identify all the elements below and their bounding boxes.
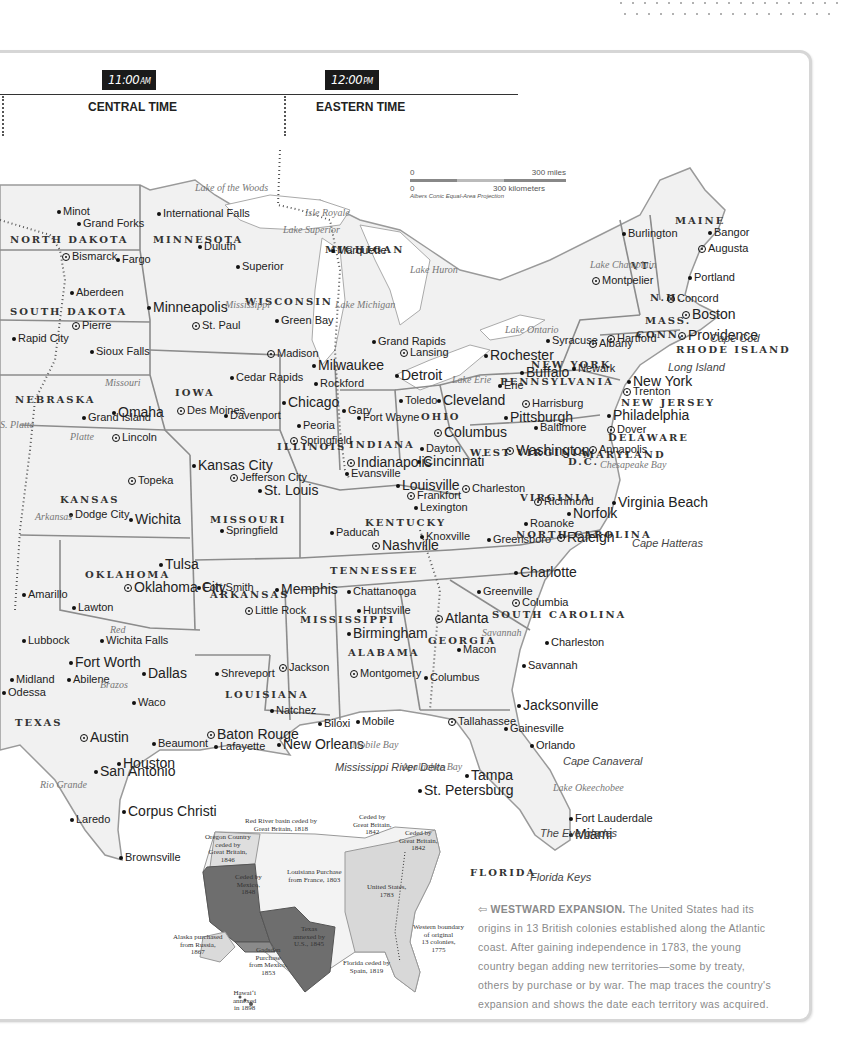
city-label: International Falls: [155, 208, 250, 219]
city-name: Midland: [16, 673, 55, 685]
city-name: Virginia Beach: [618, 494, 708, 510]
state-label: MISSISSIPPI: [300, 615, 395, 625]
city-dot-icon: [77, 222, 81, 226]
city-label: Odessa: [0, 687, 46, 698]
capital-star-icon: [230, 474, 238, 482]
city-label: Annapolis: [587, 444, 647, 455]
city-name: Dodge City: [75, 508, 129, 520]
city-name: Odessa: [8, 686, 46, 698]
city-name: Topeka: [138, 474, 173, 486]
city-dot-icon: [372, 340, 376, 344]
city-dot-icon: [534, 426, 538, 430]
central-time-clock: 11:00AM: [102, 70, 156, 90]
city-dot-icon: [520, 371, 524, 375]
city-name: Tampa: [471, 767, 513, 783]
city-name: Chattanooga: [353, 585, 416, 597]
city-dot-icon: [275, 319, 279, 323]
city-name: Rockford: [320, 377, 364, 389]
city-dot-icon: [517, 704, 521, 708]
city-dot-icon: [147, 306, 151, 310]
city-name: Detroit: [401, 367, 442, 383]
city-name: Cincinnati: [423, 453, 484, 469]
city-name: Burlington: [628, 227, 678, 239]
city-dot-icon: [10, 678, 14, 682]
city-dot-icon: [72, 606, 76, 610]
city-label: Savannah: [520, 660, 578, 671]
city-name: Lansing: [410, 346, 449, 358]
capital-star-icon: [290, 437, 298, 445]
city-dot-icon: [357, 416, 361, 420]
inset-note: United States, 1783: [367, 884, 406, 899]
city-name: Austin: [90, 729, 129, 745]
inset-note: Alaska purchased from Russia, 1867: [173, 934, 223, 957]
city-label: Midland: [8, 674, 55, 685]
city-label: Minneapolis: [145, 300, 228, 314]
city-dot-icon: [215, 672, 219, 676]
city-dot-icon: [100, 639, 104, 643]
capital-star-icon: [522, 400, 530, 408]
eastern-clock-time: 12:00: [331, 72, 362, 87]
city-label: Topeka: [126, 475, 173, 486]
eastern-clock-ampm: PM: [363, 77, 373, 86]
capital-star-icon: [667, 295, 675, 303]
city-name: Fargo: [122, 253, 151, 265]
city-name: Charlotte: [520, 564, 577, 580]
city-dot-icon: [198, 245, 202, 249]
city-name: Duluth: [204, 240, 236, 252]
capital-star-icon: [698, 245, 706, 253]
city-label: Bismarck: [60, 251, 117, 262]
city-dot-icon: [282, 401, 286, 405]
city-name: Hartford: [617, 332, 657, 344]
city-label: Baltimore: [532, 422, 586, 433]
capital-star-icon: [435, 615, 443, 623]
city-dot-icon: [314, 382, 318, 386]
city-label: Burlington: [620, 228, 678, 239]
city-dot-icon: [119, 856, 123, 860]
city-name: Trenton: [633, 385, 671, 397]
capital-star-icon: [267, 350, 275, 358]
city-name: Portland: [694, 271, 735, 283]
city-label: Mobile: [354, 716, 394, 727]
city-label: Lansing: [398, 347, 449, 358]
city-dot-icon: [708, 231, 712, 235]
city-dot-icon: [220, 529, 224, 533]
city-dot-icon: [484, 354, 488, 358]
city-dot-icon: [399, 399, 403, 403]
city-dot-icon: [347, 590, 351, 594]
city-dot-icon: [12, 337, 16, 341]
state-label: IOWA: [175, 388, 215, 398]
city-dot-icon: [330, 531, 334, 535]
city-name: Shreveport: [221, 667, 275, 679]
city-name: Grand Forks: [83, 217, 144, 229]
city-label: Wichita: [127, 512, 181, 526]
city-label: Fort Smith: [195, 582, 254, 593]
city-dot-icon: [270, 709, 274, 713]
city-dot-icon: [465, 774, 469, 778]
city-dot-icon: [116, 258, 120, 262]
city-dot-icon: [90, 350, 94, 354]
city-dot-icon: [437, 399, 441, 403]
city-name: Charleston: [551, 636, 604, 648]
water-label: Rio Grande: [40, 780, 87, 790]
city-label: Pierre: [70, 320, 111, 331]
capital-star-icon: [372, 542, 380, 550]
scale-bar-graphic: [410, 179, 566, 182]
water-label: Lake Michigan: [335, 300, 395, 310]
state-label: LOUISIANA: [225, 690, 309, 700]
city-name: Biloxi: [324, 717, 350, 729]
state-label: SOUTH CAROLINA: [492, 610, 626, 620]
city-name: Lexington: [420, 501, 468, 513]
water-label: Lake Huron: [410, 265, 458, 275]
city-name: Memphis: [281, 581, 338, 597]
city-label: Fort Worth: [67, 655, 141, 669]
city-name: Dover: [617, 423, 646, 435]
inset-note: Red River basin ceded by Great Britain, …: [245, 818, 317, 833]
city-name: Concord: [677, 292, 719, 304]
city-dot-icon: [504, 416, 508, 420]
capital-star-icon: [607, 335, 615, 343]
city-name: Birmingham: [353, 625, 428, 641]
city-label: Grand Forks: [75, 218, 144, 229]
city-name: Erie: [504, 379, 524, 391]
city-name: Frankfort: [417, 489, 461, 501]
capital-star-icon: [407, 492, 415, 500]
